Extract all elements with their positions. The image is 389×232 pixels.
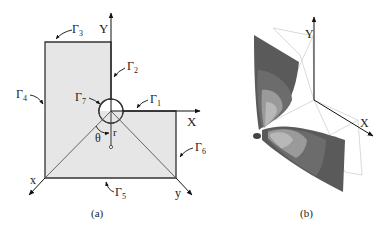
boundary-label-gamma6: Γ6 xyxy=(195,140,206,156)
boundary-label-gamma5: Γ5 xyxy=(115,185,126,201)
boundary-label-gamma4: Γ4 xyxy=(16,87,27,103)
axis-label-Y: Y xyxy=(99,21,109,36)
caption-a: (a) xyxy=(91,207,104,220)
b-axis-label-Y: Y xyxy=(305,27,314,41)
figure-canvas: Y X x y θ r Γ3 Γ2 Γ4 Γ7 Γ1 Γ6 Γ5 (a) xyxy=(0,0,389,232)
boundary-label-gamma2: Γ2 xyxy=(127,59,138,75)
axis-label-X: X xyxy=(187,114,197,129)
panel-b: Y X (b) xyxy=(253,17,373,220)
caption-b: (b) xyxy=(300,207,313,220)
theta-label: θ xyxy=(95,131,101,145)
r-label: r xyxy=(113,126,117,138)
singularity-tip xyxy=(253,133,261,139)
panel-a: Y X x y θ r Γ3 Γ2 Γ4 Γ7 Γ1 Γ6 Γ5 (a) xyxy=(16,13,206,220)
axis-label-local-x: x xyxy=(30,173,36,187)
b-axis-label-X: X xyxy=(360,116,369,130)
point-marker xyxy=(109,145,112,148)
boundary-label-gamma1: Γ1 xyxy=(150,92,161,108)
boundary-label-gamma3: Γ3 xyxy=(72,22,83,38)
axis-label-local-y: y xyxy=(175,186,181,200)
